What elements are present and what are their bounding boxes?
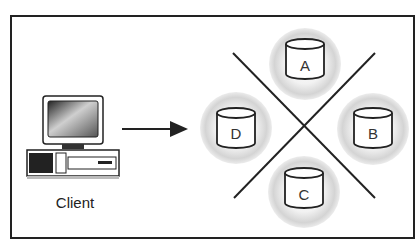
client-label: Client xyxy=(40,194,110,211)
node-label-d: D xyxy=(231,125,242,142)
node-label-a: A xyxy=(300,57,310,74)
node-label-c: C xyxy=(299,186,310,203)
desktop-computer-icon xyxy=(27,96,119,179)
node-label-b: B xyxy=(368,125,378,142)
